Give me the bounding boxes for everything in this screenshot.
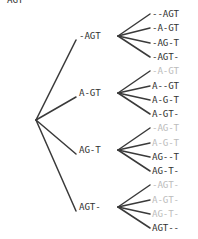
edge-root-to-middle-3: [36, 120, 76, 154]
tree-middle-node-2: A-GT: [79, 88, 101, 97]
tree-middle-node-1: -AGT: [79, 31, 101, 40]
tree-leaf-node-9: -AG-T: [152, 123, 179, 132]
tree-leaf-node-3: -AG-T: [152, 38, 179, 47]
tree-leaf-node-5: -A-GT: [152, 66, 179, 75]
gap-insertion-tree-diagram: AGT -AGTA-GTAG-TAGT- --AGT-A-GT-AG-T-AGT…: [0, 0, 198, 239]
tree-middle-node-3: AG-T: [79, 145, 101, 154]
tree-leaf-node-15: AG-T-: [152, 209, 179, 218]
tree-middle-node-4: AGT-: [79, 202, 101, 211]
tree-leaf-node-1: --AGT: [152, 9, 179, 18]
tree-leaf-node-2: -A-GT: [152, 23, 179, 32]
tree-leaf-node-14: A-GT-: [152, 195, 179, 204]
tree-leaf-node-11: AG--T: [152, 152, 179, 161]
tree-leaf-node-7: A-G-T: [152, 95, 179, 104]
tree-leaf-node-4: -AGT-: [152, 52, 179, 61]
edge-root-to-middle-4: [36, 120, 76, 211]
tree-leaf-node-16: AGT--: [152, 223, 179, 232]
tree-leaf-node-10: A-G-T: [152, 138, 179, 147]
tree-leaf-node-8: A-GT-: [152, 109, 179, 118]
tree-root-node: AGT: [7, 0, 23, 5]
tree-leaf-node-13: -AGT-: [152, 180, 179, 189]
tree-leaf-node-6: A--GT: [152, 81, 179, 90]
tree-leaf-node-12: AG-T-: [152, 166, 179, 175]
